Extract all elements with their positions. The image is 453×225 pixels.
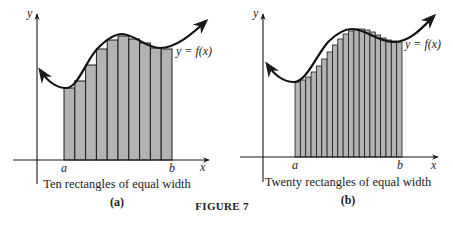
curve-label-b: y = f(x): [405, 37, 441, 52]
sublabel-a: (a): [110, 195, 124, 210]
riemann-rectangle: [381, 38, 386, 157]
riemann-rectangle: [140, 43, 151, 160]
riemann-rectangles-a: [64, 36, 172, 160]
riemann-rectangle: [365, 30, 370, 157]
panel-a: [13, 14, 209, 184]
caption-a: Ten rectangles of equal width: [43, 177, 191, 192]
figure-title: FIGURE 7: [195, 200, 248, 212]
riemann-rectangle: [375, 35, 380, 157]
b-endpoint-label-a: b: [169, 161, 175, 176]
riemann-rectangle: [349, 31, 354, 157]
riemann-rectangle: [316, 66, 321, 157]
riemann-rectangle: [300, 80, 305, 157]
caption-b: Twenty rectangles of equal width: [265, 175, 431, 190]
riemann-rectangle: [306, 77, 311, 157]
riemann-rectangles-b: [295, 29, 402, 157]
riemann-rectangle: [96, 49, 107, 160]
a-endpoint-label-a: a: [61, 161, 67, 176]
riemann-rectangle: [150, 48, 161, 160]
riemann-rectangle: [343, 34, 348, 157]
sublabel-b: (b): [341, 193, 356, 208]
riemann-rectangle: [332, 45, 337, 157]
a-endpoint-label-b: a: [292, 158, 298, 173]
y-axis-label-b: y: [253, 6, 258, 21]
riemann-rectangle: [322, 59, 327, 157]
x-axis-label-b: x: [431, 158, 436, 173]
x-axis-label-a: x: [200, 160, 205, 175]
y-axis-label-a: y: [27, 6, 32, 21]
riemann-rectangle: [397, 42, 402, 157]
riemann-rectangle: [370, 32, 375, 157]
curve-label-a: y = f(x): [176, 44, 212, 59]
riemann-rectangle: [86, 65, 97, 160]
riemann-rectangle: [64, 88, 75, 160]
riemann-rectangle: [359, 29, 364, 157]
riemann-rectangle: [338, 39, 343, 157]
riemann-rectangle: [311, 72, 316, 157]
riemann-rectangle: [118, 36, 129, 160]
riemann-rectangle: [391, 41, 396, 157]
riemann-rectangle: [75, 81, 86, 160]
riemann-rectangle: [295, 82, 300, 157]
riemann-rectangle: [327, 52, 332, 157]
riemann-rectangle: [354, 29, 359, 157]
b-endpoint-label-b: b: [397, 158, 403, 173]
riemann-rectangle: [161, 49, 172, 160]
riemann-rectangle: [107, 40, 118, 160]
riemann-rectangle: [129, 39, 140, 160]
riemann-rectangle: [386, 40, 391, 157]
